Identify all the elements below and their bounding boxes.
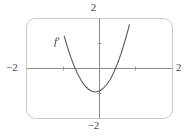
plot-area: [0, 0, 187, 136]
curve-label-f-prime: f′: [54, 36, 59, 47]
axis-label-bottom: −2: [0, 120, 187, 131]
axis-label-right: 2: [176, 62, 182, 73]
axis-label-left: −2: [6, 62, 18, 73]
graph-screenshot: 2 −2 −2 2 f′: [0, 0, 187, 136]
axis-label-top: 2: [0, 2, 187, 13]
